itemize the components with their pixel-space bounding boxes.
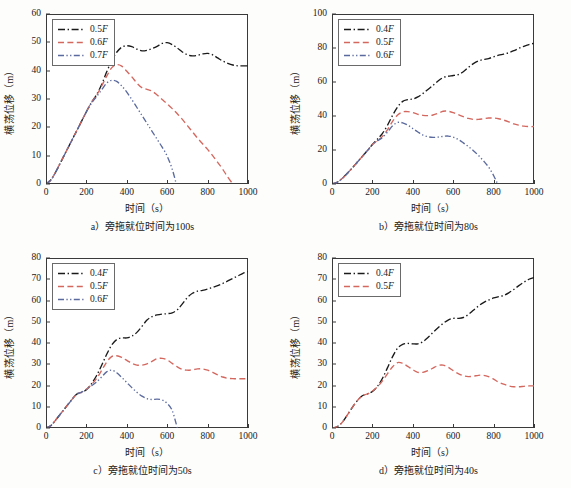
x-tick-label: 400: [120, 188, 134, 198]
x-tick-label: 600: [446, 432, 460, 442]
y-axis-label-b: 横荡位移（m）: [287, 65, 302, 134]
x-axis-label-d: 时间（s）: [332, 444, 534, 459]
x-tick-mark: [248, 180, 249, 184]
legend-label: 0.5F: [376, 282, 394, 292]
y-tick-mark: [46, 127, 50, 128]
y-tick-label: 80: [318, 43, 328, 53]
x-tick-label: 200: [79, 432, 93, 442]
x-tick-mark: [127, 424, 128, 428]
legend-item-0_5F[interactable]: 0.5F: [57, 280, 108, 293]
x-tick-label: 800: [200, 188, 214, 198]
x-tick-mark: [208, 180, 209, 184]
plot-area-b: 02040608010002004006008001000 0.4F0.5F0.…: [332, 14, 534, 184]
legend-line-swatch: [343, 269, 371, 278]
y-tick-label: 60: [318, 77, 328, 87]
legend-item-0_6F[interactable]: 0.6F: [343, 49, 394, 62]
x-tick-label: 800: [486, 188, 500, 198]
x-tick-label: 200: [365, 188, 379, 198]
y-tick-label: 10: [32, 402, 42, 412]
x-tick-mark: [494, 424, 495, 428]
y-tick-mark: [332, 258, 336, 259]
x-tick-label: 400: [120, 432, 134, 442]
series-line-0_5F: [332, 111, 534, 184]
x-tick-label: 1000: [525, 188, 544, 198]
series-line-0_6F: [332, 122, 498, 184]
plot-area-c: 0102030405060708002004006008001000 0.4F0…: [46, 258, 248, 428]
y-tick-mark: [46, 321, 50, 322]
series-line-0_7F: [46, 80, 176, 184]
legend-line-swatch: [57, 51, 85, 60]
x-tick-label: 0: [44, 432, 49, 442]
legend-line-swatch: [57, 295, 85, 304]
x-tick-mark: [167, 424, 168, 428]
x-tick-label: 600: [160, 188, 174, 198]
series-line-0_5F: [46, 356, 248, 428]
y-tick-label: 0: [322, 179, 327, 189]
y-tick-mark: [332, 48, 336, 49]
legend-c: 0.4F0.5F0.6F: [52, 263, 115, 310]
legend-line-swatch: [57, 38, 85, 47]
legend-line-swatch: [57, 282, 85, 291]
x-tick-mark: [46, 424, 47, 428]
legend-item-0_5F[interactable]: 0.5F: [57, 23, 108, 36]
x-tick-label: 600: [446, 188, 460, 198]
y-tick-mark: [46, 99, 50, 100]
x-tick-label: 0: [44, 188, 49, 198]
y-tick-mark: [332, 300, 336, 301]
legend-line-swatch: [343, 51, 371, 60]
x-tick-label: 400: [406, 432, 420, 442]
legend-label: 0.6F: [90, 38, 108, 48]
y-tick-mark: [46, 406, 50, 407]
y-tick-label: 10: [318, 402, 328, 412]
legend-a: 0.5F0.6F0.7F: [52, 19, 115, 66]
y-tick-mark: [46, 364, 50, 365]
y-tick-label: 20: [32, 381, 42, 391]
y-tick-mark: [332, 82, 336, 83]
y-tick-mark: [332, 406, 336, 407]
y-tick-mark: [332, 14, 336, 15]
legend-b: 0.4F0.5F0.6F: [338, 19, 401, 66]
y-tick-label: 20: [318, 381, 328, 391]
x-tick-label: 200: [365, 432, 379, 442]
y-tick-label: 50: [32, 317, 42, 327]
x-tick-label: 600: [160, 432, 174, 442]
x-tick-mark: [534, 424, 535, 428]
y-tick-mark: [46, 300, 50, 301]
y-tick-mark: [46, 14, 50, 15]
y-tick-label: 50: [32, 38, 42, 48]
legend-item-0_6F[interactable]: 0.6F: [57, 36, 108, 49]
legend-item-0_4F[interactable]: 0.4F: [57, 267, 108, 280]
legend-item-0_5F[interactable]: 0.5F: [343, 36, 394, 49]
legend-item-0_5F[interactable]: 0.5F: [343, 280, 394, 293]
y-tick-mark: [46, 343, 50, 344]
y-tick-label: 70: [32, 275, 42, 285]
y-tick-label: 50: [318, 317, 328, 327]
x-tick-label: 800: [200, 432, 214, 442]
y-tick-label: 0: [322, 423, 327, 433]
y-tick-label: 0: [36, 423, 41, 433]
y-tick-label: 80: [32, 253, 42, 263]
x-tick-label: 200: [79, 188, 93, 198]
legend-item-0_7F[interactable]: 0.7F: [57, 49, 108, 62]
x-tick-label: 1000: [525, 432, 544, 442]
legend-item-0_4F[interactable]: 0.4F: [343, 23, 394, 36]
y-tick-mark: [46, 70, 50, 71]
legend-d: 0.4F0.5F: [338, 263, 401, 297]
x-axis-label-a: 时间（s）: [46, 200, 248, 215]
x-tick-mark: [332, 424, 333, 428]
y-tick-label: 10: [32, 151, 42, 161]
plot-area-a: 010203040506002004006008001000 0.5F0.6F0…: [46, 14, 248, 184]
x-tick-mark: [332, 180, 333, 184]
y-tick-mark: [332, 364, 336, 365]
y-tick-mark: [46, 155, 50, 156]
legend-label: 0.4F: [376, 25, 394, 35]
legend-item-0_6F[interactable]: 0.6F: [57, 293, 108, 306]
y-tick-label: 20: [318, 145, 328, 155]
legend-line-swatch: [57, 25, 85, 34]
x-tick-mark: [494, 180, 495, 184]
x-tick-mark: [248, 424, 249, 428]
y-tick-label: 0: [36, 179, 41, 189]
y-tick-label: 40: [318, 111, 328, 121]
legend-item-0_4F[interactable]: 0.4F: [343, 267, 394, 280]
plot-area-d: 0102030405060708002004006008001000 0.4F0…: [332, 258, 534, 428]
